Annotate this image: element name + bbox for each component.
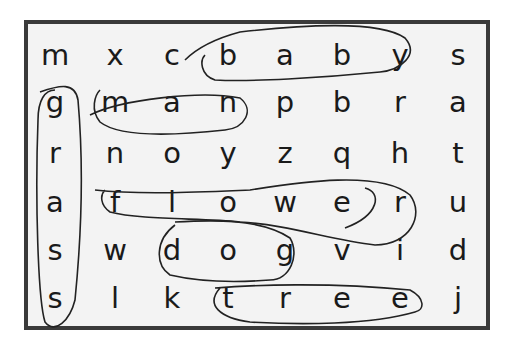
letter-cell[interactable]: v [322,230,362,270]
letter-cell[interactable]: h [380,133,420,173]
letter-cell[interactable]: k [152,278,192,318]
word-search-board [24,20,490,330]
letter-cell[interactable]: o [208,230,248,270]
letter-cell[interactable]: j [438,278,478,318]
letter-cell[interactable]: b [208,35,248,75]
letter-cell[interactable]: t [208,278,248,318]
letter-cell[interactable]: q [322,133,362,173]
letter-cell[interactable]: r [265,278,305,318]
letter-cell[interactable]: b [322,82,362,122]
letter-cell[interactable]: n [208,82,248,122]
letter-cell[interactable]: r [35,133,75,173]
letter-cell[interactable]: a [35,182,75,222]
letter-cell[interactable]: t [438,133,478,173]
letter-cell[interactable]: e [322,182,362,222]
letter-cell[interactable]: s [35,278,75,318]
letter-cell[interactable]: l [95,278,135,318]
letter-cell[interactable]: f [95,182,135,222]
letter-cell[interactable]: o [152,133,192,173]
letter-cell[interactable]: r [380,82,420,122]
letter-cell[interactable]: s [35,230,75,270]
letter-cell[interactable]: c [152,35,192,75]
letter-cell[interactable]: i [380,230,420,270]
letter-cell[interactable]: u [438,182,478,222]
letter-cell[interactable]: e [380,278,420,318]
letter-cell[interactable]: w [95,230,135,270]
letter-cell[interactable]: a [152,82,192,122]
letter-cell[interactable]: w [265,182,305,222]
letter-cell[interactable]: a [438,82,478,122]
letter-cell[interactable]: a [265,35,305,75]
letter-cell[interactable]: e [322,278,362,318]
letter-cell[interactable]: m [95,82,135,122]
letter-cell[interactable]: d [438,230,478,270]
letter-cell[interactable]: b [322,35,362,75]
letter-cell[interactable]: y [208,133,248,173]
letter-cell[interactable]: g [265,230,305,270]
letter-cell[interactable]: m [35,35,75,75]
letter-cell[interactable]: g [35,82,75,122]
letter-cell[interactable]: l [152,182,192,222]
letter-cell[interactable]: z [265,133,305,173]
letter-cell[interactable]: x [95,35,135,75]
letter-cell[interactable]: o [208,182,248,222]
letter-cell[interactable]: p [265,82,305,122]
letter-cell[interactable]: n [95,133,135,173]
letter-cell[interactable]: s [438,35,478,75]
letter-cell[interactable]: r [380,182,420,222]
letter-cell[interactable]: y [380,35,420,75]
letter-cell[interactable]: d [152,230,192,270]
